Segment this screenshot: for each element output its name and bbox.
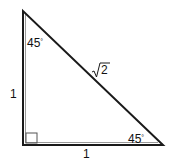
top-angle-label: 45° [27,37,43,49]
bottom-right-angle-label: 45° [128,133,144,145]
hypotenuse-radicand: 2 [101,64,108,76]
triangle-outline [23,11,163,145]
degree-symbol: ° [141,134,144,141]
triangle-diagram: 45° 45° 1 1 2 [0,0,174,160]
left-leg-label: 1 [10,88,17,100]
triangle-svg [0,0,174,160]
degree-symbol: ° [40,38,43,45]
bottom-leg-label: 1 [83,148,90,160]
bottom-right-angle-value: 45 [128,132,141,146]
top-angle-value: 45 [27,36,40,50]
hypotenuse-label: 2 [92,62,112,78]
right-angle-marker [26,133,37,143]
